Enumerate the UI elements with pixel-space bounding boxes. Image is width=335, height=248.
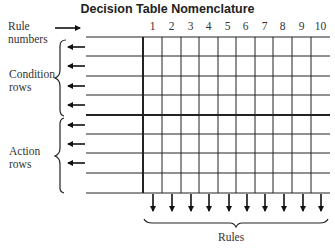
rules-brace-icon [144,219,328,227]
decision-table-grid [0,0,335,248]
action-brace-icon [55,118,64,193]
rule-arrow-icons [153,194,321,211]
row-lines [86,37,330,193]
condition-brace-icon [55,40,66,116]
row-arrow-icons [68,47,85,163]
